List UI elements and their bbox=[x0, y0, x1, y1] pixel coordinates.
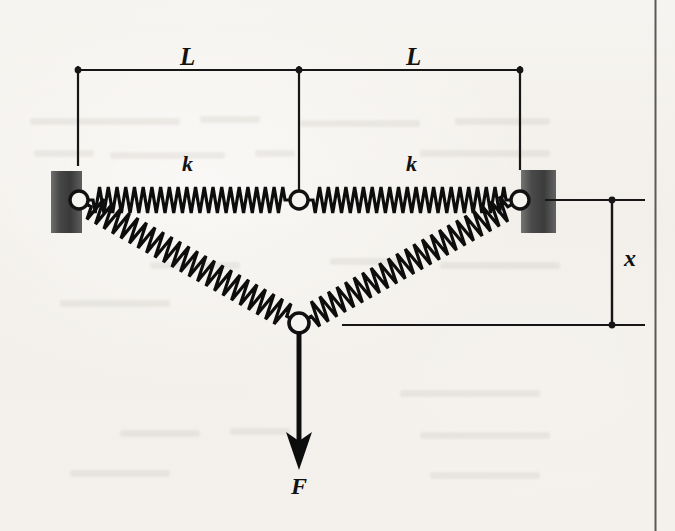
center-pin-joint bbox=[290, 191, 308, 209]
top-right-spring bbox=[299, 187, 520, 213]
lower-right-spring bbox=[299, 197, 520, 327]
dimension-tick-left bbox=[75, 67, 82, 74]
dimension-displacement-x bbox=[342, 197, 645, 329]
label-force-f: F bbox=[291, 474, 307, 498]
left-pin-joint bbox=[70, 191, 88, 209]
dimension-chain-length bbox=[75, 66, 524, 190]
force-arrow bbox=[286, 331, 312, 470]
diagram-canvas bbox=[0, 0, 675, 531]
dimension-tick-right bbox=[517, 67, 524, 74]
label-stiffness-right: k bbox=[406, 153, 417, 175]
lower-left-spring bbox=[79, 199, 299, 324]
right-pin-joint bbox=[511, 191, 529, 209]
label-stiffness-left: k bbox=[182, 153, 193, 175]
figure-page: L L k k x F bbox=[0, 0, 675, 531]
label-displacement-x: x bbox=[624, 246, 636, 270]
bottom-pin-joint bbox=[289, 313, 309, 333]
dimension-tick-center bbox=[296, 67, 303, 74]
x-dimension-tick-top bbox=[609, 197, 616, 204]
x-dimension-tick-bottom bbox=[609, 322, 616, 329]
label-length-right: L bbox=[406, 44, 421, 69]
label-length-left: L bbox=[180, 44, 195, 69]
